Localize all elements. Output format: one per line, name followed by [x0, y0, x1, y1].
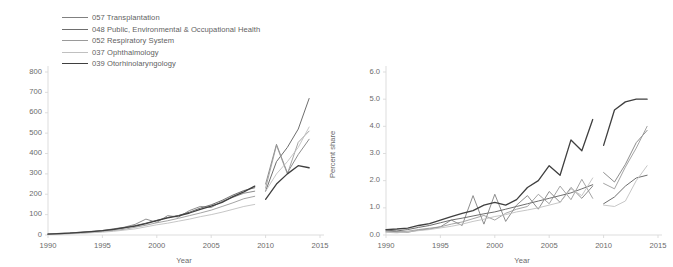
- series-segment: [48, 204, 255, 234]
- plot-area-left: [0, 0, 336, 267]
- series-segment: [266, 98, 310, 191]
- series-line-left-1: [48, 98, 309, 234]
- series-line-right-2: [386, 126, 647, 232]
- y-tick-label-right-0: 0.0: [346, 230, 380, 239]
- y-tick-label-left-4: 400: [8, 148, 42, 157]
- x-tick-label-left-5: 2015: [303, 241, 337, 250]
- series-line-right-1: [386, 175, 647, 231]
- y-axis-title-right: Percent share: [328, 131, 337, 178]
- series-segment: [386, 179, 593, 232]
- y-tick-label-left-2: 200: [8, 189, 42, 198]
- y-tick-label-left-3: 300: [8, 168, 42, 177]
- x-tick-label-right-0: 1990: [369, 241, 403, 250]
- x-axis-title-right: Year: [386, 256, 658, 265]
- series-segment: [48, 191, 255, 234]
- x-tick-label-right-3: 2005: [532, 241, 566, 250]
- y-tick-label-right-3: 3.0: [346, 148, 380, 157]
- y-tick-label-right-1: 1.0: [346, 202, 380, 211]
- x-axis-title-left: Year: [48, 256, 320, 265]
- y-tick-label-left-7: 700: [8, 87, 42, 96]
- plot-area-right: [336, 0, 673, 267]
- y-tick-label-left-1: 100: [8, 209, 42, 218]
- x-tick-label-left-3: 2005: [194, 241, 228, 250]
- y-tick-label-left-8: 800: [8, 67, 42, 76]
- y-tick-label-right-5: 5.0: [346, 94, 380, 103]
- x-tick-label-right-2: 2000: [478, 241, 512, 250]
- y-tick-label-right-6: 6.0: [346, 67, 380, 76]
- y-tick-label-left-0: 0: [8, 230, 42, 239]
- series-segment: [48, 188, 255, 234]
- chart-panel-left: 0100200300400500600700800199019952000200…: [0, 0, 336, 267]
- series-line-right-0: [386, 130, 647, 232]
- y-tick-label-left-5: 500: [8, 128, 42, 137]
- x-tick-label-right-4: 2010: [587, 241, 621, 250]
- series-line-left-0: [48, 139, 309, 234]
- x-tick-label-left-1: 1995: [85, 241, 119, 250]
- series-line-left-4: [48, 166, 309, 234]
- y-tick-label-left-6: 600: [8, 107, 42, 116]
- x-tick-label-right-5: 2015: [641, 241, 673, 250]
- series-segment: [266, 166, 310, 200]
- x-tick-label-left-4: 2010: [249, 241, 283, 250]
- x-tick-label-right-1: 1995: [423, 241, 457, 250]
- series-line-left-2: [48, 131, 309, 234]
- series-segment: [604, 175, 648, 204]
- x-tick-label-left-2: 2000: [140, 241, 174, 250]
- series-segment: [386, 178, 593, 233]
- y-axis-title-left: No. of articles: [0, 129, 1, 175]
- series-segment: [386, 185, 593, 231]
- series-line-right-4: [386, 99, 647, 229]
- y-tick-label-right-4: 4.0: [346, 121, 380, 130]
- x-tick-label-left-0: 1990: [31, 241, 65, 250]
- figure-canvas: 057 Transplantation048 Public, Environme…: [0, 0, 673, 267]
- chart-panel-right: 0.01.02.03.04.05.06.01990199520002005201…: [336, 0, 673, 267]
- series-segment: [604, 126, 648, 188]
- series-segment: [48, 186, 255, 234]
- y-tick-label-right-2: 2.0: [346, 175, 380, 184]
